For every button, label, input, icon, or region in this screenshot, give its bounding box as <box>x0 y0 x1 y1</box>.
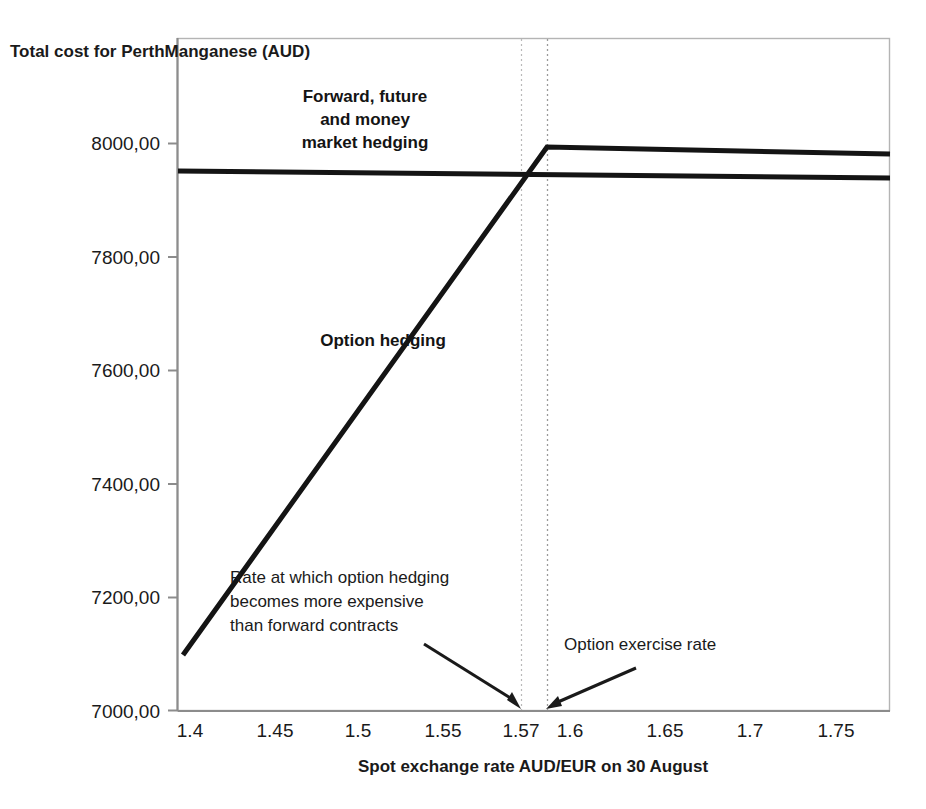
chart-page: 8000,00 7800,00 7600,00 7400,00 7200,00 … <box>0 0 926 809</box>
annotation-leader-line <box>424 644 512 699</box>
series-label-line: and money <box>320 110 410 129</box>
annotation-line: than forward contracts <box>230 616 398 635</box>
y-tick-label: 7000,00 <box>91 701 160 722</box>
hedging-cost-line-chart: 8000,00 7800,00 7600,00 7400,00 7200,00 … <box>0 0 926 809</box>
x-tick-label: 1.45 <box>257 720 294 741</box>
y-tick-label: 7400,00 <box>91 474 160 495</box>
series-label-forward-hedging: Forward, future and money market hedging <box>302 87 429 152</box>
series-label-line: Option hedging <box>320 331 446 350</box>
annotation-breakeven-rate: Rate at which option hedging becomes mor… <box>230 568 521 709</box>
annotation-line: Option exercise rate <box>564 635 716 654</box>
annotation-line: becomes more expensive <box>230 592 424 611</box>
y-axis-ticks <box>168 144 178 711</box>
series-line-forward-future-money-market-hedging <box>178 171 890 178</box>
x-tick-label: 1.4 <box>177 720 204 741</box>
x-axis-tick-labels: 1.4 1.45 1.5 1.55 1.57 1.6 1.65 1.7 1.75 <box>177 720 855 741</box>
annotation-line: Rate at which option hedging <box>230 568 449 587</box>
y-tick-label: 7200,00 <box>91 587 160 608</box>
y-tick-label: 8000,00 <box>91 133 160 154</box>
annotation-arrow-head <box>507 692 521 709</box>
series-label-line: Forward, future <box>303 87 428 106</box>
x-axis-title: Spot exchange rate AUD/EUR on 30 August <box>358 757 708 776</box>
x-tick-label: 1.65 <box>647 720 684 741</box>
series-label-option-hedging: Option hedging <box>320 331 446 350</box>
annotation-leader-line <box>558 668 636 702</box>
x-tick-label: 1.6 <box>557 720 583 741</box>
series-label-line: market hedging <box>302 133 429 152</box>
x-tick-label: 1.5 <box>345 720 371 741</box>
x-tick-label: 1.7 <box>737 720 763 741</box>
x-tick-label: 1.57 <box>503 720 540 741</box>
y-tick-label: 7600,00 <box>91 360 160 381</box>
annotation-option-exercise-rate: Option exercise rate <box>546 635 716 709</box>
x-tick-label: 1.75 <box>818 720 855 741</box>
annotation-arrow-head <box>546 696 562 709</box>
y-tick-label: 7800,00 <box>91 247 160 268</box>
y-axis-title: Total cost for PerthManganese (AUD) <box>10 42 310 61</box>
y-axis-tick-labels: 8000,00 7800,00 7600,00 7400,00 7200,00 … <box>91 133 160 722</box>
x-tick-label: 1.55 <box>425 720 462 741</box>
